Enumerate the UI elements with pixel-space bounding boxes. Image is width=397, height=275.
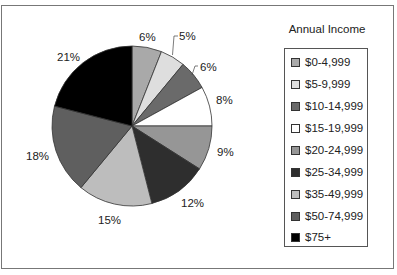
leader-line-5pct [173,36,179,55]
pie-label-0-4999: 6% [139,31,156,43]
legend-swatch [291,190,300,199]
legend-label: $35-49,999 [305,188,363,200]
legend-label: $5-9,999 [305,78,350,90]
legend-label: $25-34,999 [305,166,363,178]
legend-item-35-49999: $35-49,999 [291,187,363,201]
legend-swatch [291,124,300,133]
legend-swatch [291,146,300,155]
legend-item-0-4999: $0-4,999 [291,55,350,69]
legend-label: $10-14,999 [305,100,363,112]
legend-item-50-74999: $50-74,999 [291,209,363,223]
legend-label: $20-24,999 [305,144,363,156]
legend-item-5-9999: $5-9,999 [291,77,350,91]
legend: $0-4,999 $5-9,999 $10-14,999 $15-19,999 … [284,48,368,247]
pie-label-10-14999: 6% [200,61,217,73]
pie-label-20-24999: 9% [217,146,234,158]
pie-label-5-9999: 5% [179,30,196,42]
legend-swatch [291,212,300,221]
legend-item-20-24999: $20-24,999 [291,143,363,157]
legend-label: $15-19,999 [305,122,363,134]
legend-swatch [291,233,300,242]
legend-item-75-plus: $75+ [291,230,331,244]
legend-label: $75+ [305,231,331,243]
pie-label-25-34999: 12% [181,197,204,209]
legend-item-15-19999: $15-19,999 [291,121,363,135]
legend-swatch [291,102,300,111]
legend-item-25-34999: $25-34,999 [291,165,363,179]
legend-title: Annual Income [277,23,377,35]
legend-item-10-14999: $10-14,999 [291,99,363,113]
legend-label: $50-74,999 [305,210,363,222]
legend-swatch [291,168,300,177]
legend-swatch [291,80,300,89]
legend-label: $0-4,999 [305,56,350,68]
pie-label-35-49999: 15% [98,214,121,226]
pie-label-15-19999: 8% [216,94,233,106]
legend-swatch [291,58,300,67]
pie-label-75-plus: 21% [57,51,80,63]
pie-label-50-74999: 18% [26,150,49,162]
